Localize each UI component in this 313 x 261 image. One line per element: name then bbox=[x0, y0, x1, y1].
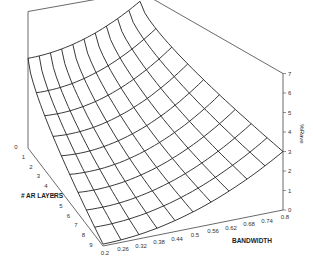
x-tick-label: 0.44 bbox=[171, 236, 183, 242]
x-tick-label: 0.62 bbox=[225, 225, 237, 231]
x-tick-label: 0.38 bbox=[153, 239, 165, 245]
x-tick-label: 0.74 bbox=[261, 218, 273, 224]
y-tick-label: 2 bbox=[29, 164, 33, 170]
y-tick-label: 8 bbox=[82, 232, 86, 238]
x-tick-label: 0.2 bbox=[101, 250, 110, 256]
surface-wireframe bbox=[28, 1, 283, 244]
z-tick-label: 1 bbox=[288, 188, 292, 194]
z-tick-label: 0 bbox=[288, 207, 292, 213]
z-tick-label: 5 bbox=[288, 110, 292, 116]
x-tick-label: 0.26 bbox=[117, 246, 129, 252]
y-tick-label: 3 bbox=[37, 173, 41, 179]
x-tick-label: 0.5 bbox=[191, 232, 200, 238]
y-axis-label: # AR LAYERS bbox=[21, 192, 64, 199]
z-axis-ticks: 01234567 bbox=[283, 71, 292, 214]
y-tick-label: 7 bbox=[74, 222, 78, 228]
x-tick-label: 0.68 bbox=[243, 221, 255, 227]
z-tick-label: 4 bbox=[288, 129, 292, 135]
y-tick-label: 5 bbox=[59, 203, 63, 209]
y-tick-label: 9 bbox=[89, 242, 93, 248]
z-tick-label: 6 bbox=[288, 90, 292, 96]
z-tick-label: 2 bbox=[288, 168, 292, 174]
y-tick-label: 0 bbox=[14, 144, 18, 150]
x-axis-ticks: 0.20.260.320.380.440.50.560.620.680.740.… bbox=[101, 214, 290, 256]
x-tick-label: 0.32 bbox=[135, 243, 147, 249]
z-tick-label: 7 bbox=[288, 71, 292, 77]
x-tick-label: 0.8 bbox=[281, 214, 290, 220]
z-axis-label: %Rave bbox=[299, 124, 305, 144]
surface-chart: 0.20.260.320.380.440.50.560.620.680.740.… bbox=[0, 0, 313, 261]
x-axis-label: BANDWIDTH bbox=[232, 237, 272, 244]
y-tick-label: 6 bbox=[67, 213, 71, 219]
z-tick-label: 3 bbox=[288, 149, 292, 155]
y-tick-label: 1 bbox=[22, 154, 26, 160]
y-tick-label: 4 bbox=[44, 183, 48, 189]
x-tick-label: 0.56 bbox=[207, 228, 219, 234]
